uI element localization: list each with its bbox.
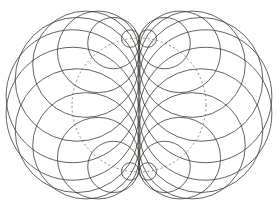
tangent-circle — [139, 93, 245, 199]
tangent-circles — [6, 11, 272, 199]
envelope-diagram — [0, 0, 278, 209]
tangent-circle — [139, 117, 221, 199]
tangent-circle — [139, 17, 263, 141]
tangent-circle — [139, 11, 245, 117]
tangent-circle — [139, 69, 263, 193]
tangent-circle — [139, 11, 221, 93]
tangent-circle — [15, 17, 139, 141]
tangent-circle — [15, 69, 139, 193]
tangent-circle — [33, 93, 139, 199]
